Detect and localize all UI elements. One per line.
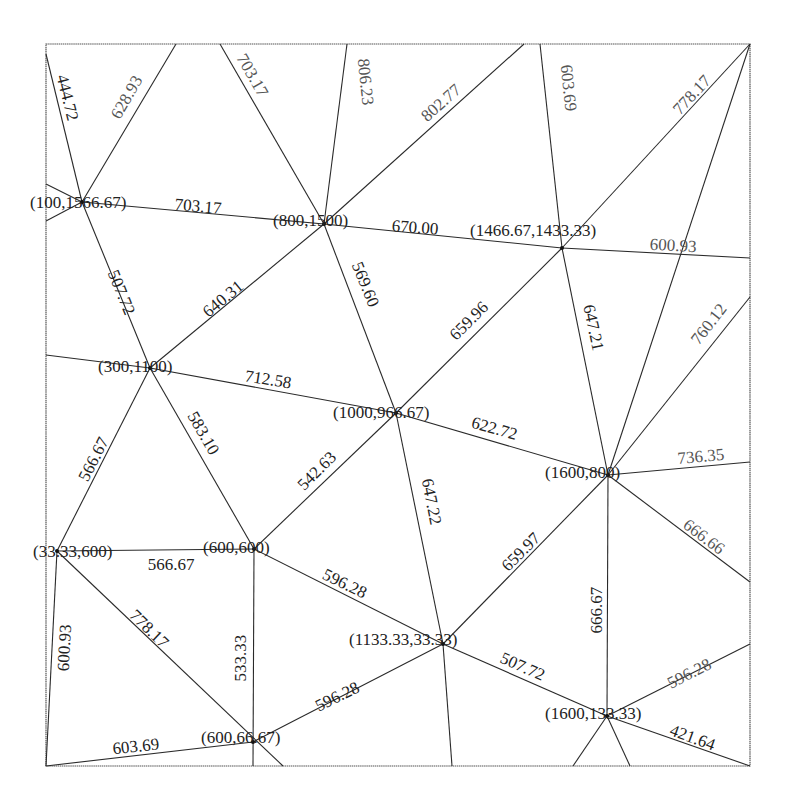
edge-length-label: 603.69 bbox=[112, 735, 160, 759]
edge-length-label: 666.67 bbox=[587, 586, 606, 633]
node-coordinate-label: (100,1566.67) bbox=[30, 193, 126, 212]
node-coordinate-label: (1600,800) bbox=[545, 463, 620, 482]
edge-length-label: 736.35 bbox=[677, 445, 725, 468]
node-coordinate-label: (33.33,600) bbox=[33, 542, 112, 561]
edge-length-label: 712.58 bbox=[244, 366, 293, 392]
edge-length-label: 659.97 bbox=[498, 528, 545, 575]
node-coordinate-label: (600,600) bbox=[203, 538, 270, 557]
node-coordinate-label: (1466.67,1433.33) bbox=[470, 221, 596, 240]
node-coordinate-label: (1133.33,33.33) bbox=[349, 630, 457, 649]
node-coordinate-label: (300,1100) bbox=[98, 357, 172, 376]
edge-length-label: 778.17 bbox=[669, 71, 715, 119]
edge-line bbox=[254, 413, 396, 549]
edge-line bbox=[396, 413, 443, 644]
triangulation-diagram: 444.72628.93703.17507.72703.17806.23802.… bbox=[0, 0, 788, 801]
edge-length-label: 421.64 bbox=[667, 721, 718, 755]
edge-length-label: 647.21 bbox=[579, 303, 607, 353]
node-coordinate-label: (800,1500) bbox=[273, 211, 348, 230]
edge-line bbox=[573, 716, 607, 766]
edge-line bbox=[607, 475, 608, 716]
edge-line bbox=[220, 44, 324, 224]
edge-length-label: 542.63 bbox=[294, 448, 340, 494]
edge-line bbox=[324, 44, 347, 224]
edge-line bbox=[324, 224, 396, 413]
edge-length-label: 600.93 bbox=[54, 624, 75, 672]
edge-length-label: 760.12 bbox=[687, 300, 731, 349]
edge-length-label: 659.96 bbox=[446, 298, 492, 344]
node-coordinate-label: (1600,133.33) bbox=[545, 704, 641, 723]
edge-length-label: 596.28 bbox=[312, 678, 362, 716]
edge-line bbox=[607, 716, 630, 766]
edge-line bbox=[396, 248, 562, 413]
edge-length-label: 507.72 bbox=[104, 267, 139, 317]
edge-length-label: 603.69 bbox=[557, 64, 581, 112]
edge-length-label: 583.10 bbox=[183, 408, 223, 458]
edge-length-label: 533.33 bbox=[231, 635, 250, 682]
edge-length-label: 778.17 bbox=[126, 606, 173, 652]
edge-length-label: 666.66 bbox=[680, 515, 729, 558]
edge-length-label: 703.17 bbox=[174, 195, 223, 218]
edge-line bbox=[562, 248, 608, 475]
edge-length-label: 596.28 bbox=[664, 655, 714, 693]
edge-length-label: 566.67 bbox=[75, 434, 113, 485]
edge-length-label: 647.22 bbox=[418, 477, 446, 527]
edge-line bbox=[608, 475, 750, 582]
edge-line bbox=[324, 44, 524, 224]
edge-line bbox=[82, 44, 176, 202]
edge-length-label: 600.93 bbox=[649, 235, 697, 256]
node-coordinate-label: (600,66.67) bbox=[201, 728, 280, 747]
edge-length-label: 622.72 bbox=[469, 413, 519, 444]
node-coordinate-label: (1000,966.67) bbox=[333, 403, 429, 422]
edge-length-label: 670.00 bbox=[391, 216, 439, 238]
edge-length-label: 596.28 bbox=[320, 565, 370, 603]
edge-length-label: 640.31 bbox=[199, 276, 247, 321]
edge-length-label: 566.67 bbox=[148, 555, 195, 574]
node-point bbox=[560, 246, 564, 250]
edge-length-label: 628.93 bbox=[107, 72, 147, 122]
edge-line bbox=[562, 44, 750, 248]
edge-line bbox=[443, 644, 452, 766]
edge-length-label: 806.23 bbox=[354, 58, 378, 106]
edge-line bbox=[150, 368, 254, 549]
